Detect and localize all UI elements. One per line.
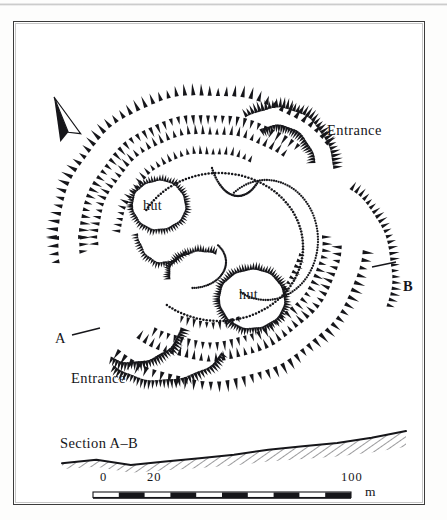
label-section-marker-a: A xyxy=(55,330,66,347)
interior-features xyxy=(131,167,319,322)
label-entrance-southwest: Entrance xyxy=(71,370,126,387)
north-arrow-icon xyxy=(44,93,81,142)
site-plan-drawing xyxy=(14,22,426,506)
scale-tick-100: 100 xyxy=(341,470,363,485)
label-hut-central: hut xyxy=(239,287,258,303)
label-entrance-northeast: Entrance xyxy=(327,122,382,139)
label-section-title: Section A–B xyxy=(60,435,138,452)
scale-tick-0: 0 xyxy=(100,470,107,485)
figure-frame: Entrance Entrance hut hut A B Section A–… xyxy=(13,21,425,505)
scale-tick-20: 20 xyxy=(147,470,162,485)
label-hut-northwest: hut xyxy=(143,198,162,214)
page-top-rule xyxy=(0,3,447,6)
scale-unit-label: m xyxy=(365,484,376,500)
scale-bar xyxy=(93,492,351,499)
label-section-marker-b: B xyxy=(403,278,413,295)
figure-page: Entrance Entrance hut hut A B Section A–… xyxy=(0,0,447,520)
section-leader-a xyxy=(72,328,100,335)
